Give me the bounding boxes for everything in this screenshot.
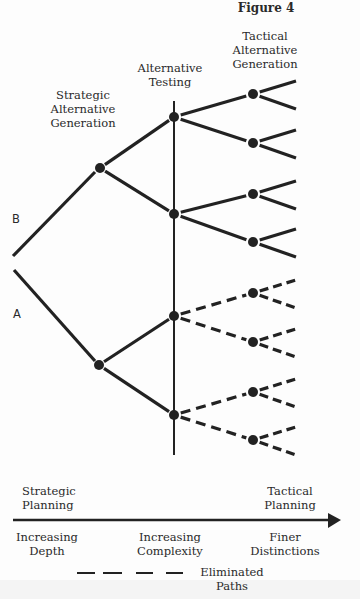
- testing-to-tactical-edge: [181, 196, 246, 213]
- label-line: Generation: [220, 57, 310, 71]
- eliminated-leaf: [260, 394, 296, 407]
- axis-note-finer-distinctions: Finer Distinctions: [245, 530, 325, 558]
- label-line: Generation: [38, 116, 128, 130]
- label-line: Alternative: [125, 61, 215, 75]
- tactical-leaf: [260, 81, 296, 92]
- eliminated-leaf: [260, 295, 296, 308]
- tactical-node: [248, 237, 258, 247]
- eliminated-leaf: [260, 344, 296, 357]
- tactical-node: [248, 288, 258, 298]
- eliminated-path: [181, 318, 247, 340]
- root-branch-a: [14, 270, 95, 361]
- axis-label-strategic-planning: Strategic Planning: [22, 484, 76, 512]
- tactical-node: [248, 435, 258, 445]
- label-line: Distinctions: [245, 544, 325, 558]
- label-tactical-alternative-generation: Tactical Alternative Generation: [220, 29, 310, 71]
- label-line: Increasing: [125, 530, 215, 544]
- strategic-to-testing-edge: [104, 319, 169, 361]
- strategic-to-testing-edge: [105, 171, 169, 211]
- axis-note-increasing-complexity: Increasing Complexity: [125, 530, 215, 558]
- testing-to-tactical-edge: [181, 119, 247, 141]
- strategic-node: [94, 360, 104, 370]
- label-line: Alternative: [220, 43, 310, 57]
- label-line: Tactical: [220, 29, 310, 43]
- eliminated-leaf: [260, 379, 296, 390]
- tactical-node: [248, 337, 258, 347]
- tactical-leaf: [260, 96, 296, 109]
- tactical-leaf: [260, 196, 296, 209]
- label-line: Paths: [196, 579, 268, 593]
- label-line: Strategic: [38, 88, 128, 102]
- label-line: Increasing: [12, 530, 82, 544]
- branch-label-a: A: [13, 307, 21, 321]
- label-line: Depth: [12, 544, 82, 558]
- tactical-node: [248, 89, 258, 99]
- label-line: Finer: [245, 530, 325, 544]
- label-line: Planning: [22, 498, 76, 512]
- strategic-to-testing-edge: [104, 368, 169, 411]
- testing-node: [169, 410, 179, 420]
- testing-node: [169, 209, 179, 219]
- tactical-node: [248, 189, 258, 199]
- label-alternative-testing: Alternative Testing: [125, 61, 215, 89]
- axis-label-tactical-planning: Tactical Planning: [255, 484, 325, 512]
- eliminated-path: [181, 394, 247, 413]
- arrowhead-icon: [328, 513, 341, 528]
- tactical-node: [248, 138, 258, 148]
- tactical-node: [248, 387, 258, 397]
- eliminated-leaf: [260, 427, 296, 438]
- branch-label-b: B: [12, 212, 20, 226]
- eliminated-path: [181, 417, 247, 438]
- tactical-leaf: [260, 181, 296, 192]
- tactical-leaf: [260, 229, 296, 240]
- legend-eliminated-paths-label: Eliminated Paths: [196, 565, 268, 593]
- root-branch-b: [13, 172, 95, 256]
- label-line: Strategic: [22, 484, 76, 498]
- eliminated-leaf: [260, 280, 296, 291]
- testing-to-tactical-edge: [181, 96, 247, 115]
- tactical-leaf: [260, 130, 296, 141]
- label-line: Complexity: [125, 544, 215, 558]
- label-strategic-alternative-generation: Strategic Alternative Generation: [38, 88, 128, 130]
- tactical-leaf: [260, 244, 296, 257]
- label-line: Alternative: [38, 102, 128, 116]
- label-line: Tactical: [255, 484, 325, 498]
- figure-title: Figure 4: [236, 1, 296, 15]
- label-line: Planning: [255, 498, 325, 512]
- testing-to-tactical-edge: [181, 216, 247, 239]
- figure-canvas: Figure 4 Tactical Alternative Generation…: [0, 0, 360, 599]
- axis-note-increasing-depth: Increasing Depth: [12, 530, 82, 558]
- eliminated-leaf: [260, 329, 296, 340]
- strategic-node: [95, 163, 105, 173]
- testing-node: [169, 112, 179, 122]
- testing-node: [169, 311, 179, 321]
- label-line: Eliminated: [196, 565, 268, 579]
- eliminated-leaf: [260, 442, 296, 455]
- eliminated-path: [181, 295, 247, 314]
- tactical-leaf: [260, 145, 296, 158]
- label-line: Testing: [125, 75, 215, 89]
